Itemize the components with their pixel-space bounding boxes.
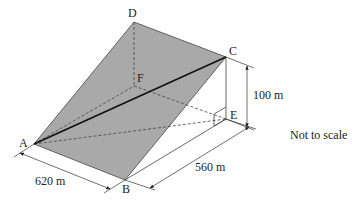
vertex-label-e: E	[230, 108, 237, 122]
inclined-plane-diagram: D C F E A B 620 m 560 m 100 m Not to sca…	[0, 0, 357, 205]
not-to-scale-note: Not to scale	[290, 128, 347, 142]
vertex-label-f: F	[137, 71, 144, 85]
dimension-label-ab: 620 m	[35, 174, 66, 188]
vertex-label-d: D	[128, 6, 137, 20]
vertex-label-a: A	[19, 136, 28, 150]
dimension-label-ce: 100 m	[253, 88, 284, 102]
vertex-label-c: C	[229, 44, 237, 58]
dimension-label-be: 560 m	[195, 160, 226, 174]
vertex-label-b: B	[122, 182, 130, 196]
